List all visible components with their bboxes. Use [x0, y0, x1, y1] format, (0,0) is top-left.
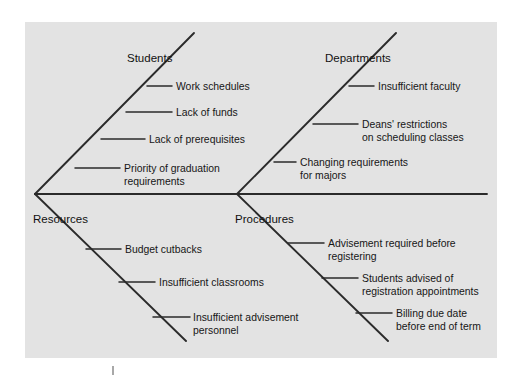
cause-label-students-3-line2: requirements — [124, 176, 185, 187]
cause-label-students-2: Lack of prerequisites — [149, 134, 245, 145]
fishbone-canvas: Students Work schedules Lack of funds La… — [0, 0, 512, 379]
cause-label-resources-0: Budget cutbacks — [125, 244, 202, 255]
branch-label-resources: Resources — [33, 213, 88, 225]
cause-label-procedures-1-line2: registration appointments — [362, 286, 479, 297]
branch-label-students: Students — [127, 52, 173, 64]
cause-label-departments-2: Changing requirements — [300, 157, 408, 168]
cause-label-procedures-2: Billing due date — [396, 308, 467, 319]
cause-label-departments-1: Deans' restrictions — [362, 119, 447, 130]
cause-label-procedures-0: Advisement required before — [328, 238, 456, 249]
cause-label-students-3: Priority of graduation — [124, 163, 220, 174]
cause-label-students-0: Work schedules — [176, 81, 250, 92]
cause-label-departments-0: Insufficient faculty — [378, 81, 461, 92]
branch-label-departments: Departments — [325, 52, 391, 64]
cause-label-procedures-1: Students advised of — [362, 273, 453, 284]
fishbone-diagram: Students Work schedules Lack of funds La… — [0, 0, 512, 379]
cause-label-resources-1: Insufficient classrooms — [159, 277, 264, 288]
cause-label-resources-2-line2: personnel — [193, 325, 239, 336]
cause-label-resources-2: Insufficient advisement — [193, 312, 299, 323]
cause-label-students-1: Lack of funds — [176, 107, 238, 118]
branch-label-procedures: Procedures — [235, 213, 294, 225]
cause-label-departments-1-line2: on scheduling classes — [362, 132, 464, 143]
cause-label-procedures-0-line2: registering — [328, 251, 377, 262]
cause-label-procedures-2-line2: before end of term — [396, 321, 481, 332]
cause-label-departments-2-line2: for majors — [300, 170, 346, 181]
